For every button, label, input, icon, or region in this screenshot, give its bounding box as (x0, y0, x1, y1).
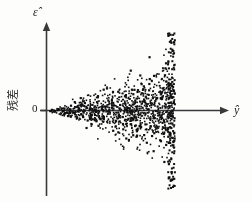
residual-axis-caption: 残差 (4, 82, 20, 118)
y-axis-label: ε̂ (33, 6, 38, 18)
residual-plot-figure: ε̂ ŷ 0 残差 (0, 0, 252, 202)
scatter-plot-canvas (0, 0, 252, 202)
origin-tick-label: 0 (32, 102, 38, 114)
x-axis-label: ŷ (234, 104, 239, 116)
